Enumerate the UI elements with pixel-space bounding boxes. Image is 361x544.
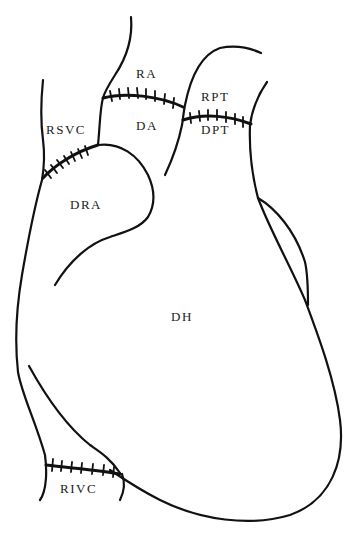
- label-rivc: RIVC: [60, 481, 97, 496]
- heart-anastomosis-diagram: RA DA RPT DPT RSVC DRA DH RIVC: [0, 0, 361, 544]
- label-da: DA: [136, 118, 158, 133]
- pulmonary-trunk-right-wall: [250, 82, 267, 125]
- ivc-inner-wall: [29, 366, 120, 473]
- label-dh: DH: [171, 309, 193, 324]
- aorta-left-wall: [98, 17, 131, 145]
- heart-right-contour: [110, 125, 341, 521]
- label-rsvc: RSVC: [46, 122, 86, 137]
- label-ra: RA: [136, 66, 157, 81]
- ivc-suture-line: [46, 459, 120, 477]
- heart-left-contour: [16, 180, 46, 500]
- aorta-right-wall: [165, 105, 185, 175]
- donor-right-atrium: [55, 145, 153, 285]
- label-rpt: RPT: [201, 89, 229, 104]
- label-dpt: DPT: [201, 122, 230, 137]
- svc-suture-line: [43, 145, 98, 178]
- aortic-suture-line: [103, 88, 183, 108]
- svc-left-wall: [42, 80, 45, 180]
- label-dra: DRA: [70, 197, 102, 212]
